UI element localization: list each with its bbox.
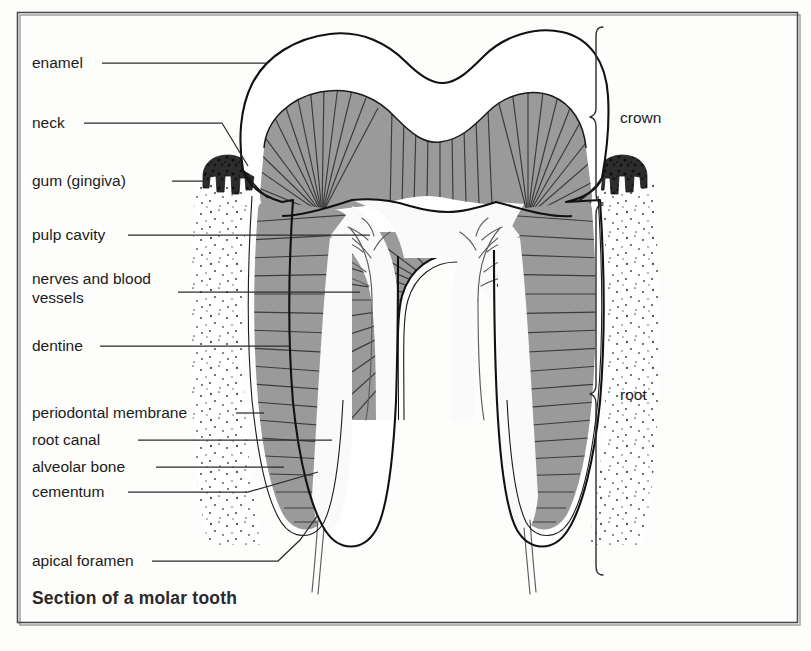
bracket-label-crown: crown [620, 109, 661, 126]
figure-caption: Section of a molar tooth [32, 588, 237, 608]
figure-page: enamel neck gum (gingiva) pulp cavity ne… [0, 0, 811, 651]
bracket-label-root: root [620, 386, 647, 403]
label-enamel: enamel [32, 54, 83, 71]
label-neck: neck [32, 114, 65, 131]
label-nerves-and-blood-line2: vessels [32, 289, 84, 306]
tooth-diagram-svg: enamel neck gum (gingiva) pulp cavity ne… [0, 0, 811, 651]
label-dentine: dentine [32, 337, 83, 354]
label-periodontal-membrane: periodontal membrane [32, 404, 187, 421]
label-gum-gingiva: gum (gingiva) [32, 172, 126, 189]
label-root-canal: root canal [32, 431, 100, 448]
label-nerves-and-blood-line1: nerves and blood [32, 270, 151, 287]
label-apical-foramen: apical foramen [32, 552, 134, 569]
label-pulp-cavity: pulp cavity [32, 226, 105, 243]
label-cementum: cementum [32, 483, 104, 500]
label-alveolar-bone: alveolar bone [32, 458, 125, 475]
